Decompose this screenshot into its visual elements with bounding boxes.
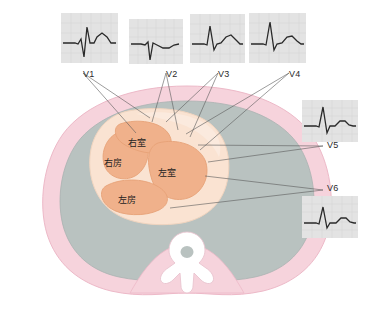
figure-canvas: 右室 右房 左室 左房 — [0, 0, 375, 313]
lead-label-v3: V3 — [218, 70, 229, 79]
lead-label-v2: V2 — [166, 70, 177, 79]
ecg-panel-v2 — [129, 19, 183, 64]
chamber-label-right-atrium: 右房 — [104, 159, 122, 168]
ecg-panel-v5 — [302, 100, 358, 142]
chamber-label-left-atrium: 左房 — [118, 196, 136, 205]
chamber-label-right-ventricle: 右室 — [128, 139, 146, 148]
lead-label-v6: V6 — [327, 184, 338, 193]
lead-label-v5: V5 — [327, 141, 338, 150]
chamber-label-left-ventricle: 左室 — [158, 169, 176, 178]
ecg-panel-v1 — [61, 13, 118, 63]
ecg-panel-v3 — [190, 14, 245, 63]
thorax-cross-section — [0, 0, 375, 313]
lead-label-v1: V1 — [83, 70, 94, 79]
ecg-panel-v4 — [249, 13, 306, 63]
ecg-panel-v6 — [302, 196, 358, 238]
lead-label-v4: V4 — [289, 70, 300, 79]
